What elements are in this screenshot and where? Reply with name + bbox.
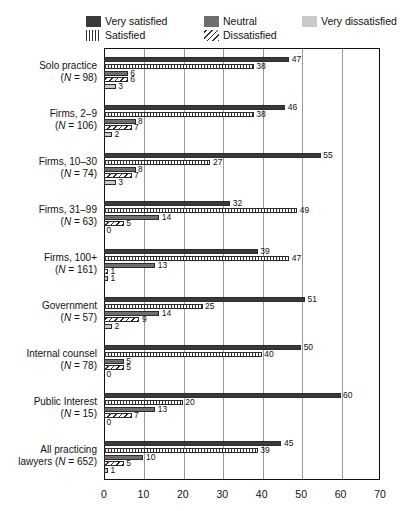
- x-tick-50: 50: [288, 488, 314, 500]
- category-label-line: (N = 63): [0, 216, 97, 228]
- x-tick-40: 40: [249, 488, 275, 500]
- legend-label-dissatisfied: Dissatisfied: [223, 30, 277, 41]
- category-label-line: Firms, 2–9: [0, 108, 97, 120]
- bar: [104, 324, 112, 329]
- bar: [104, 77, 128, 82]
- bar-value-label: 5: [126, 219, 131, 228]
- category-label-line: Government: [0, 300, 97, 312]
- bar: [104, 215, 159, 220]
- bar: [104, 208, 297, 213]
- bar: [104, 71, 128, 76]
- bar: [104, 84, 116, 89]
- category-axis-labels: Solo practice(N = 98)Firms, 2–9(N = 106)…: [0, 48, 100, 480]
- bar-value-label: 27: [213, 158, 222, 167]
- category-label-line: All practicing: [0, 444, 97, 456]
- cropped-title-sliver: [0, 0, 403, 7]
- category-label-4: Firms, 100+(N = 161): [0, 252, 97, 275]
- bar-value-label: 13: [158, 261, 167, 270]
- chart-page: Very satisfiedNeutralVery dissatisfied S…: [0, 0, 403, 511]
- bar-value-label: 14: [162, 309, 171, 318]
- category-label-line: (N = 98): [0, 72, 97, 84]
- bar-value-label: 20: [185, 398, 194, 407]
- bars-layer: 4738663463887255278733249145039471311512…: [104, 48, 380, 480]
- x-tick-60: 60: [328, 488, 354, 500]
- legend-row-1: Very satisfiedNeutralVery dissatisfied: [86, 16, 396, 29]
- legend-label-satisfied: Satisfied: [105, 30, 145, 41]
- bar: [104, 400, 183, 405]
- legend-swatch-very_satisfied: [86, 16, 101, 27]
- category-label-line: Firms, 31–99: [0, 204, 97, 216]
- category-label-line: (N = 161): [0, 264, 97, 276]
- bar-value-label: 38: [256, 62, 265, 71]
- category-label-line: (N = 74): [0, 168, 97, 180]
- bar: [104, 311, 159, 316]
- chart-legend: Very satisfiedNeutralVery dissatisfied S…: [86, 16, 396, 44]
- bar-value-label: 49: [300, 206, 309, 215]
- bar: [104, 256, 289, 261]
- category-label-line: (N = 78): [0, 360, 97, 372]
- category-label-0: Solo practice(N = 98): [0, 60, 97, 83]
- category-label-line: Public Interest: [0, 396, 97, 408]
- bar-value-label: 0: [107, 418, 112, 427]
- bar-value-label: 9: [142, 315, 147, 324]
- legend-swatch-very_dissatisfied: [302, 16, 317, 27]
- category-label-line: (N = 57): [0, 312, 97, 324]
- bar: [104, 119, 136, 124]
- x-tick-30: 30: [209, 488, 235, 500]
- x-tick-0: 0: [91, 488, 117, 500]
- legend-item-very_dissatisfied: Very dissatisfied: [302, 16, 397, 27]
- bar-value-label: 47: [292, 254, 301, 263]
- category-label-1: Firms, 2–9(N = 106): [0, 108, 97, 131]
- bar: [104, 455, 143, 460]
- bar: [104, 201, 230, 206]
- bar-value-label: 25: [205, 302, 214, 311]
- bar-value-label: 55: [323, 151, 332, 160]
- legend-swatch-neutral: [204, 16, 219, 27]
- bar: [104, 269, 108, 274]
- category-label-3: Firms, 31–99(N = 63): [0, 204, 97, 227]
- x-tick-70: 70: [367, 488, 393, 500]
- category-label-line: (N = 106): [0, 120, 97, 132]
- x-tick-10: 10: [130, 488, 156, 500]
- category-label-8: All practicinglawyers (N = 652): [0, 444, 97, 467]
- legend-item-satisfied: Satisfied: [86, 30, 145, 41]
- bar: [104, 276, 108, 281]
- bar-value-label: 5: [126, 459, 131, 468]
- bar-value-label: 47: [292, 55, 301, 64]
- bar-value-label: 2: [114, 130, 119, 139]
- category-label-6: Internal counsel(N = 78): [0, 348, 97, 371]
- bar-value-label: 6: [130, 75, 135, 84]
- bar: [104, 64, 254, 69]
- bar: [104, 407, 155, 412]
- bar: [104, 441, 281, 446]
- bar: [104, 448, 258, 453]
- bar-value-label: 2: [114, 322, 119, 331]
- bar: [104, 167, 136, 172]
- bar-value-label: 7: [134, 171, 139, 180]
- bar-value-label: 14: [162, 213, 171, 222]
- legend-row-2: SatisfiedDissatisfied: [86, 30, 396, 43]
- bar-value-label: 40: [264, 350, 273, 359]
- category-label-line: Firms, 10–30: [0, 156, 97, 168]
- legend-label-very_dissatisfied: Very dissatisfied: [321, 16, 397, 27]
- bar: [104, 317, 139, 322]
- bar: [104, 160, 210, 165]
- bar-value-label: 46: [288, 103, 297, 112]
- category-label-5: Government(N = 57): [0, 300, 97, 323]
- category-label-2: Firms, 10–30(N = 74): [0, 156, 97, 179]
- bar: [104, 393, 341, 398]
- bar-value-label: 10: [146, 453, 155, 462]
- category-label-line: (N = 15): [0, 408, 97, 420]
- bar-value-label: 3: [118, 178, 123, 187]
- legend-swatch-dissatisfied: [204, 30, 219, 41]
- legend-swatch-satisfied: [86, 30, 101, 41]
- bar: [104, 468, 108, 473]
- bar: [104, 132, 112, 137]
- category-label-line: Internal counsel: [0, 348, 97, 360]
- category-label-line: Solo practice: [0, 60, 97, 72]
- x-axis-tick-labels: 010203040506070: [104, 482, 380, 502]
- bar: [104, 180, 116, 185]
- bar: [104, 249, 258, 254]
- bar-value-label: 51: [308, 295, 317, 304]
- bar-value-label: 1: [110, 466, 115, 475]
